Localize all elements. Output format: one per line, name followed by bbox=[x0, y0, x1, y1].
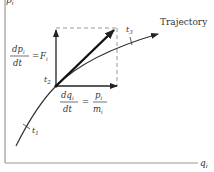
label-t3: t3 bbox=[126, 25, 133, 35]
svg-text:Fi: Fi bbox=[39, 51, 48, 62]
svg-text:=: = bbox=[82, 97, 89, 107]
label-t2: t2 bbox=[44, 75, 51, 85]
tick-t1 bbox=[23, 124, 30, 129]
position-equation: dqi dt = pi mi bbox=[60, 90, 107, 115]
y-axis-label: pi bbox=[6, 0, 14, 6]
x-axis-label: qi bbox=[200, 158, 208, 169]
svg-text:dpi: dpi bbox=[12, 44, 25, 55]
phase-space-diagram: pi qi t1 t2 t3 bbox=[0, 0, 214, 172]
trajectory-label: Trajectory bbox=[160, 17, 208, 27]
svg-text:dt: dt bbox=[13, 58, 22, 68]
label-t1: t1 bbox=[32, 126, 39, 136]
resultant-arrow bbox=[56, 30, 114, 86]
svg-text:mi: mi bbox=[93, 104, 103, 115]
tick-t3 bbox=[130, 37, 132, 45]
point-t2 bbox=[54, 84, 57, 87]
momentum-equation: dpi dt = Fi bbox=[10, 44, 48, 68]
svg-text:=: = bbox=[32, 51, 39, 61]
svg-text:pi: pi bbox=[95, 90, 102, 101]
svg-text:dt: dt bbox=[63, 104, 72, 114]
svg-text:dqi: dqi bbox=[61, 90, 74, 101]
